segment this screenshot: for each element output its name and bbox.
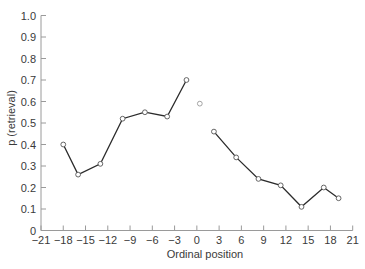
data-point-marker	[120, 116, 125, 121]
x-tick-label: −9	[124, 234, 137, 246]
serial-position-chart: 00.10.20.30.40.50.60.70.80.91.0−21−18−15…	[0, 0, 365, 269]
data-point-marker	[336, 196, 341, 201]
data-point-marker	[61, 142, 66, 147]
data-point-marker	[256, 177, 261, 182]
y-tick-label: 0.7	[21, 74, 36, 86]
data-series	[61, 78, 341, 210]
series-line	[63, 80, 186, 175]
series-center	[197, 101, 202, 106]
data-point-marker	[98, 161, 103, 166]
data-point-marker	[278, 183, 283, 188]
y-tick-label: 0.9	[21, 31, 36, 43]
series-line	[214, 132, 339, 207]
x-axis-label: Ordinal position	[167, 248, 243, 260]
data-point-marker	[197, 101, 202, 106]
data-point-marker	[212, 129, 217, 134]
data-point-marker	[143, 110, 148, 115]
x-tick-label: 15	[302, 234, 314, 246]
series-before	[61, 78, 189, 177]
x-tick-label: 18	[324, 234, 336, 246]
y-tick-label: 0.5	[21, 117, 36, 129]
x-tick-label: −15	[76, 234, 95, 246]
x-tick-label: 0	[194, 234, 200, 246]
x-tick-label: −21	[32, 234, 51, 246]
y-axis-label: p (retrieval)	[5, 90, 17, 146]
data-point-marker	[234, 155, 239, 160]
y-tick-label: 0.6	[21, 96, 36, 108]
data-point-marker	[321, 185, 326, 190]
series-after	[212, 129, 341, 209]
x-tick-label: 12	[280, 234, 292, 246]
y-tick-label: 1.0	[21, 10, 36, 22]
data-point-marker	[184, 78, 189, 83]
y-tick-label: 0.3	[21, 160, 36, 172]
x-tick-label: 21	[347, 234, 359, 246]
y-tick-label: 0.1	[21, 203, 36, 215]
x-tick-label: −18	[54, 234, 73, 246]
data-point-marker	[165, 114, 170, 119]
axes: 00.10.20.30.40.50.60.70.80.91.0−21−18−15…	[21, 10, 359, 246]
y-tick-label: 0.2	[21, 182, 36, 194]
x-tick-label: −3	[168, 234, 181, 246]
x-tick-label: 3	[216, 234, 222, 246]
y-tick-label: 0.8	[21, 53, 36, 65]
data-point-marker	[76, 172, 81, 177]
x-tick-label: −12	[98, 234, 117, 246]
x-tick-label: 6	[238, 234, 244, 246]
data-point-marker	[299, 204, 304, 209]
x-tick-label: 9	[261, 234, 267, 246]
y-tick-label: 0.4	[21, 139, 36, 151]
x-tick-label: −6	[146, 234, 159, 246]
